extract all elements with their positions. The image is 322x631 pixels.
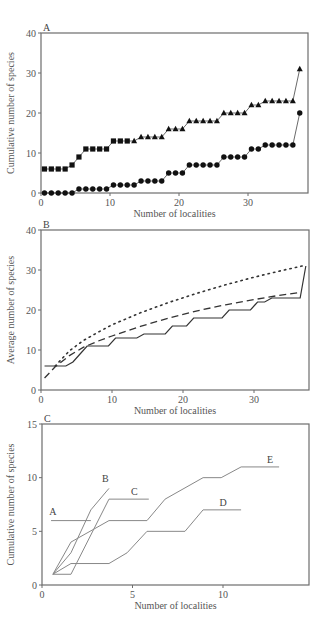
plot-frame bbox=[41, 230, 309, 390]
circle-marker bbox=[290, 142, 295, 147]
y-axis-label: Cumulative number of species bbox=[5, 52, 16, 174]
circle-marker bbox=[283, 142, 288, 147]
triangle-marker bbox=[145, 134, 151, 139]
y-tick-label: 40 bbox=[26, 28, 36, 39]
circle-marker bbox=[145, 178, 150, 183]
triangle-marker bbox=[200, 118, 206, 123]
circle-marker bbox=[263, 142, 268, 147]
circle-marker bbox=[56, 190, 61, 195]
square-marker bbox=[90, 146, 95, 151]
triangle-marker bbox=[290, 98, 296, 103]
x-axis-label: Number of localities bbox=[133, 208, 215, 219]
triangle-marker bbox=[173, 126, 179, 131]
circle-marker bbox=[131, 182, 136, 187]
series-line bbox=[44, 69, 299, 169]
triangle-marker bbox=[221, 110, 227, 115]
x-tick-label: 0 bbox=[39, 197, 44, 208]
y-tick-label: 10 bbox=[27, 472, 37, 483]
curve-label-c: C bbox=[131, 486, 138, 497]
triangle-marker bbox=[228, 110, 234, 115]
circle-marker bbox=[187, 162, 192, 167]
x-tick-label: 30 bbox=[249, 394, 259, 405]
circle-marker bbox=[200, 162, 205, 167]
x-tick-label: 0 bbox=[40, 589, 45, 600]
triangle-marker bbox=[283, 98, 289, 103]
curve-label-e: E bbox=[267, 454, 273, 465]
circle-marker bbox=[90, 186, 95, 191]
curve-c bbox=[53, 499, 149, 574]
circle-marker bbox=[159, 178, 164, 183]
circle-marker bbox=[69, 190, 74, 195]
y-tick-label: 15 bbox=[27, 419, 37, 430]
triangle-marker bbox=[276, 98, 282, 103]
triangle-marker bbox=[166, 126, 172, 131]
triangle-marker bbox=[255, 102, 261, 107]
square-marker bbox=[56, 166, 61, 171]
square-marker bbox=[97, 146, 102, 151]
plot-frame bbox=[42, 424, 309, 585]
x-tick-label: 0 bbox=[39, 394, 44, 405]
panel-letter: A bbox=[43, 22, 51, 33]
species-accumulation-figure: 0102030400102030ANumber of localitiesCum… bbox=[0, 0, 322, 631]
x-tick-label: 10 bbox=[107, 394, 117, 405]
y-tick-label: 0 bbox=[31, 385, 36, 396]
circle-marker bbox=[118, 182, 123, 187]
triangle-marker bbox=[262, 98, 268, 103]
triangle-marker bbox=[152, 134, 158, 139]
square-marker bbox=[118, 138, 123, 143]
x-tick-label: 5 bbox=[130, 589, 135, 600]
square-marker bbox=[83, 146, 88, 151]
triangle-marker bbox=[207, 118, 213, 123]
figure-canvas: 0102030400102030ANumber of localitiesCum… bbox=[0, 0, 322, 631]
y-axis-label: Average number of species bbox=[5, 256, 16, 364]
circle-marker bbox=[214, 162, 219, 167]
circle-marker bbox=[228, 154, 233, 159]
panel-a-chart: 0102030400102030ANumber of localitiesCum… bbox=[5, 22, 308, 219]
circle-marker bbox=[249, 146, 254, 151]
square-marker bbox=[49, 166, 54, 171]
circle-marker bbox=[180, 170, 185, 175]
circle-marker bbox=[49, 190, 54, 195]
triangle-marker bbox=[131, 138, 137, 143]
curve-label-d: D bbox=[219, 497, 226, 508]
panel-c-chart: 0510150510CNumber of localitiesCumulativ… bbox=[5, 413, 309, 611]
square-marker bbox=[125, 138, 130, 143]
circle-marker bbox=[152, 178, 157, 183]
square-marker bbox=[63, 166, 68, 171]
y-tick-label: 10 bbox=[26, 148, 36, 159]
circle-marker bbox=[104, 186, 109, 191]
circle-marker bbox=[173, 170, 178, 175]
x-tick-label: 30 bbox=[243, 197, 253, 208]
triangle-marker bbox=[193, 118, 199, 123]
curve-b bbox=[53, 488, 109, 574]
y-tick-label: 0 bbox=[31, 188, 36, 199]
curve-d bbox=[53, 510, 241, 574]
y-tick-label: 0 bbox=[32, 580, 37, 591]
x-tick-label: 20 bbox=[174, 197, 184, 208]
circle-marker bbox=[297, 110, 302, 115]
triangle-marker bbox=[235, 110, 241, 115]
circle-marker bbox=[97, 186, 102, 191]
circle-marker bbox=[269, 142, 274, 147]
circle-marker bbox=[242, 154, 247, 159]
square-marker bbox=[69, 162, 74, 167]
y-tick-label: 20 bbox=[26, 108, 36, 119]
square-marker bbox=[111, 138, 116, 143]
x-tick-label: 20 bbox=[178, 394, 188, 405]
circle-marker bbox=[138, 178, 143, 183]
y-tick-label: 20 bbox=[26, 305, 36, 316]
circle-marker bbox=[221, 154, 226, 159]
square-marker bbox=[76, 154, 81, 159]
y-axis-label: Cumulative number of species bbox=[5, 443, 16, 565]
triangle-marker bbox=[297, 66, 303, 71]
circle-marker bbox=[194, 162, 199, 167]
y-tick-label: 30 bbox=[26, 68, 36, 79]
circle-marker bbox=[42, 190, 47, 195]
circle-marker bbox=[83, 186, 88, 191]
y-tick-label: 5 bbox=[32, 526, 37, 537]
triangle-marker bbox=[138, 134, 144, 139]
y-tick-label: 30 bbox=[26, 265, 36, 276]
dashed-curve bbox=[45, 292, 301, 378]
triangle-marker bbox=[248, 102, 254, 107]
x-axis-label: Number of localities bbox=[134, 600, 216, 611]
